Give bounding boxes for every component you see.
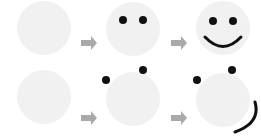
face-with-eyes [106,2,160,56]
arrow-icon [81,111,97,125]
eye-left [119,16,127,24]
face-blank-1 [17,1,71,55]
face-misplaced-eyes [102,66,160,126]
row-misplaced [17,66,256,132]
face-smiling [196,1,250,55]
eye-misplaced-left [102,76,110,84]
eye-misplaced-left [193,76,201,84]
eye-left [209,17,217,25]
eye-right [139,16,147,24]
arrow-icon [171,36,187,50]
row-correct [17,1,250,56]
face-blank-2 [17,70,71,124]
eye-misplaced-right [228,66,236,74]
eye-right [229,17,237,25]
eye-misplaced-right [139,66,147,74]
face-misplaced-all [193,66,256,132]
arrow-icon [81,36,97,50]
arrow-icon [171,111,187,125]
face-assembly-diagram [0,0,261,136]
